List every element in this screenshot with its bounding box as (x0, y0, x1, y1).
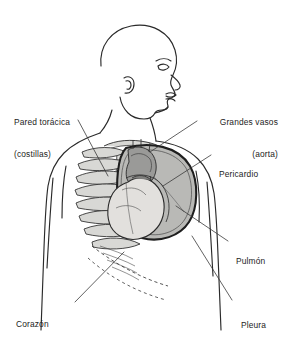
label-corazon-line1: Corazón (16, 319, 49, 330)
label-pared-toracica: Pared torácica (costillas) (14, 96, 70, 180)
costal-cartilage (100, 246, 139, 280)
leader-grandes-vasos (150, 121, 197, 152)
leader-pleura (192, 236, 232, 300)
diaphragm-dashed (92, 246, 168, 286)
label-pared-toracica-line2: (costillas) (14, 149, 70, 160)
label-pulmon: Pulmón (236, 235, 265, 288)
diaphragm-dashed-lower (88, 258, 166, 300)
label-corazon: Corazón (16, 298, 49, 342)
head-outline (101, 25, 177, 119)
label-pulmon-line1: Pulmón (236, 256, 265, 267)
label-pleura: Pleura (241, 299, 266, 342)
leader-corazon (75, 252, 124, 302)
neck-front (150, 118, 156, 141)
label-pleura-line1: Pleura (241, 320, 266, 331)
ear-outline (124, 77, 134, 93)
label-pericardio-line1: Pericardio (219, 169, 258, 180)
neck-back (100, 110, 112, 133)
brow-line (156, 59, 171, 61)
eye-outline (158, 64, 169, 70)
label-pericardio: Pericardio (219, 148, 258, 201)
label-pared-toracica-line1: Pared torácica (14, 117, 70, 128)
anatomy-diagram: Pared torácica (costillas) Grandes vasos… (0, 0, 288, 342)
label-grandes-vasos-line1: Grandes vasos (220, 117, 278, 128)
